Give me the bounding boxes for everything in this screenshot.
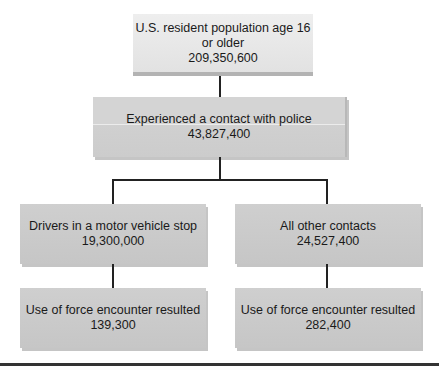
- connector-line: [112, 179, 114, 204]
- node-value: 209,350,600: [188, 51, 258, 66]
- bottom-rule-divider: [0, 363, 439, 366]
- node-force-other: Use of force encounter resulted 282,400: [235, 288, 421, 348]
- node-value: 24,527,400: [297, 234, 360, 249]
- connector-line: [326, 179, 328, 204]
- node-drivers-stop: Drivers in a motor vehicle stop 19,300,0…: [20, 204, 206, 264]
- node-value: 43,827,400: [188, 127, 251, 142]
- node-other-contacts: All other contacts 24,527,400: [235, 204, 421, 264]
- node-label: Experienced a contact with police: [126, 112, 312, 127]
- node-label: U.S. resident population age 16 or older: [133, 21, 313, 51]
- connector-line: [326, 264, 328, 288]
- node-value: 19,300,000: [82, 234, 145, 249]
- node-value: 282,400: [305, 318, 350, 333]
- branch-connector: [112, 179, 328, 181]
- node-population: U.S. resident population age 16 or older…: [133, 14, 313, 76]
- node-force-drivers: Use of force encounter resulted 139,300: [20, 288, 206, 348]
- node-label: Drivers in a motor vehicle stop: [29, 219, 197, 234]
- connector-line: [219, 76, 221, 97]
- connector-line: [112, 264, 114, 288]
- node-label: Use of force encounter resulted: [26, 303, 200, 318]
- node-label: All other contacts: [280, 219, 376, 234]
- node-police-contact: Experienced a contact with police 43,827…: [93, 97, 347, 157]
- node-value: 139,300: [90, 318, 135, 333]
- node-label: Use of force encounter resulted: [241, 303, 415, 318]
- connector-line: [219, 157, 221, 181]
